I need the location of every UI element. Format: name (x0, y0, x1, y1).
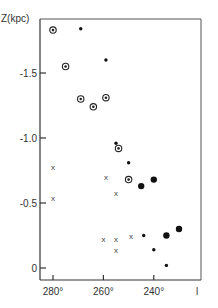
cross-marker: x (129, 232, 133, 241)
circled-dot-center (52, 29, 55, 32)
small-dot-marker (165, 264, 168, 267)
circled-dot-center (64, 65, 67, 68)
x-tick-label: 240° (143, 286, 164, 297)
y-tick-label: -1.5 (20, 68, 38, 79)
large-dot-marker (163, 232, 169, 238)
x-tick-label: 280° (43, 286, 64, 297)
plot-frame (40, 19, 201, 280)
y-tick-label: 0 (31, 263, 37, 274)
circled-dot-center (92, 106, 95, 109)
x-tick-label: 260° (93, 286, 114, 297)
circled-dot-center (117, 147, 120, 150)
cross-marker: x (51, 194, 55, 203)
cross-marker: x (101, 235, 105, 244)
scatter-chart: -1.5-1.0-0.50 280°260°240° Z(kpc) l xxxx… (0, 0, 218, 308)
small-dot-marker (152, 248, 155, 251)
cross-marker: x (104, 173, 108, 182)
y-axis-title: Z(kpc) (1, 13, 29, 24)
small-dot-marker (142, 234, 145, 237)
x-axis-title: l (196, 286, 198, 297)
circled-dot-center (127, 178, 130, 181)
large-dot-marker (176, 226, 182, 232)
small-dot-marker (127, 161, 130, 164)
small-dot-marker (79, 27, 82, 30)
cross-marker: x (114, 235, 118, 244)
y-axis: -1.5-1.0-0.50 (20, 68, 46, 274)
small-dot-marker (104, 58, 107, 61)
cross-marker: x (51, 163, 55, 172)
y-tick-label: -0.5 (20, 198, 38, 209)
large-dot-marker (151, 176, 157, 182)
small-dot-marker (114, 142, 117, 145)
cross-marker: x (114, 189, 118, 198)
data-points: xxxxxxxx (50, 27, 182, 267)
y-tick-label: -1.0 (20, 133, 38, 144)
circled-dot-center (79, 98, 82, 101)
large-dot-marker (138, 183, 144, 189)
circled-dot-center (105, 96, 108, 99)
x-axis: 280°260°240° (43, 275, 164, 297)
cross-marker: x (114, 246, 118, 255)
